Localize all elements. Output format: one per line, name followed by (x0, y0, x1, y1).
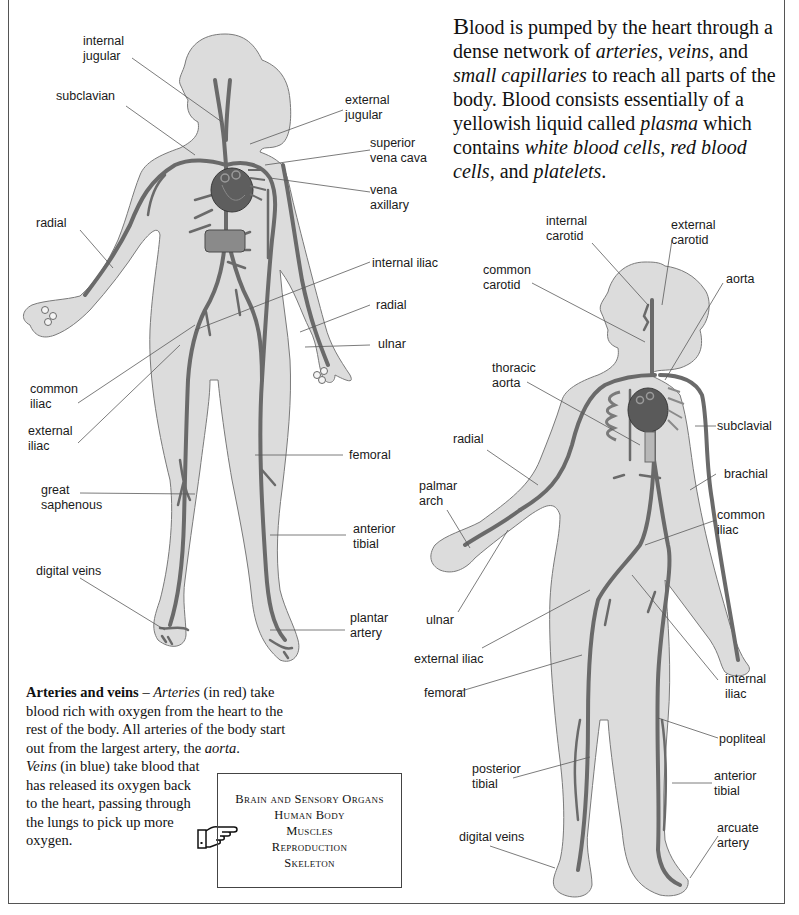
label-external-jugular: external jugular (345, 93, 389, 123)
label-anterior-tibial: anterior tibial (714, 769, 756, 799)
label-thoracic-aorta: thoracic aorta (492, 361, 536, 391)
label-digital-veins: digital veins (459, 830, 524, 845)
label-common-iliac: common iliac (30, 382, 78, 412)
label-ulnar: ulnar (378, 337, 406, 352)
label-internal-iliac: internal iliac (372, 256, 438, 271)
label-common-iliac: common iliac (717, 508, 765, 538)
link-reproduction[interactable]: Reproduction (272, 839, 347, 855)
label-posterior-tibial: posterior tibial (472, 762, 521, 792)
link-human-body[interactable]: Human Body (274, 807, 345, 823)
label-aorta: aorta (726, 272, 755, 287)
label-superior-vena-cava: superior vena cava (370, 136, 427, 166)
label-radial: radial (453, 432, 484, 447)
intro-paragraph: Blood is pumped by the heart through a d… (453, 14, 783, 183)
arteries-body-silhouette (431, 262, 750, 897)
label-arcuate-artery: arcuate artery (717, 821, 759, 851)
label-anterior-tibial: anterior tibial (353, 522, 395, 552)
label-radial-left: radial (36, 216, 67, 231)
label-ulnar: ulnar (426, 613, 454, 628)
label-external-iliac: external iliac (414, 652, 483, 667)
label-palmar-arch: palmar arch (419, 479, 457, 509)
label-vena-axillary: vena axillary (370, 183, 409, 213)
label-femoral: femoral (349, 448, 391, 463)
label-external-iliac: external iliac (28, 424, 72, 454)
label-subclavial: subclavial (717, 419, 772, 434)
label-external-carotid: external carotid (671, 218, 715, 248)
label-common-carotid: common carotid (483, 263, 531, 293)
label-internal-jugular: internal jugular (83, 34, 124, 64)
label-digital-veins: digital veins (36, 564, 101, 579)
see-also-box: Brain and Sensory Organs Human Body Musc… (217, 773, 402, 888)
arteries-figure (431, 240, 750, 897)
label-brachial: brachial (724, 467, 768, 482)
link-skeleton[interactable]: Skeleton (284, 855, 335, 871)
link-muscles[interactable]: Muscles (286, 823, 333, 839)
label-plantar-artery: plantar artery (350, 611, 388, 641)
label-internal-iliac: internal iliac (725, 672, 766, 702)
label-popliteal: popliteal (719, 732, 766, 747)
label-subclavian: subclavian (56, 89, 115, 104)
label-great-saphenous: great saphenous (41, 483, 102, 513)
caption-heading: Arteries and veins (26, 684, 139, 700)
label-internal-carotid: internal carotid (546, 214, 587, 244)
link-brain-and-sensory-organs[interactable]: Brain and Sensory Organs (235, 791, 383, 807)
label-femoral: femoral (424, 686, 466, 701)
intro-dropcap: B (453, 13, 469, 39)
label-radial-right: radial (376, 298, 407, 313)
